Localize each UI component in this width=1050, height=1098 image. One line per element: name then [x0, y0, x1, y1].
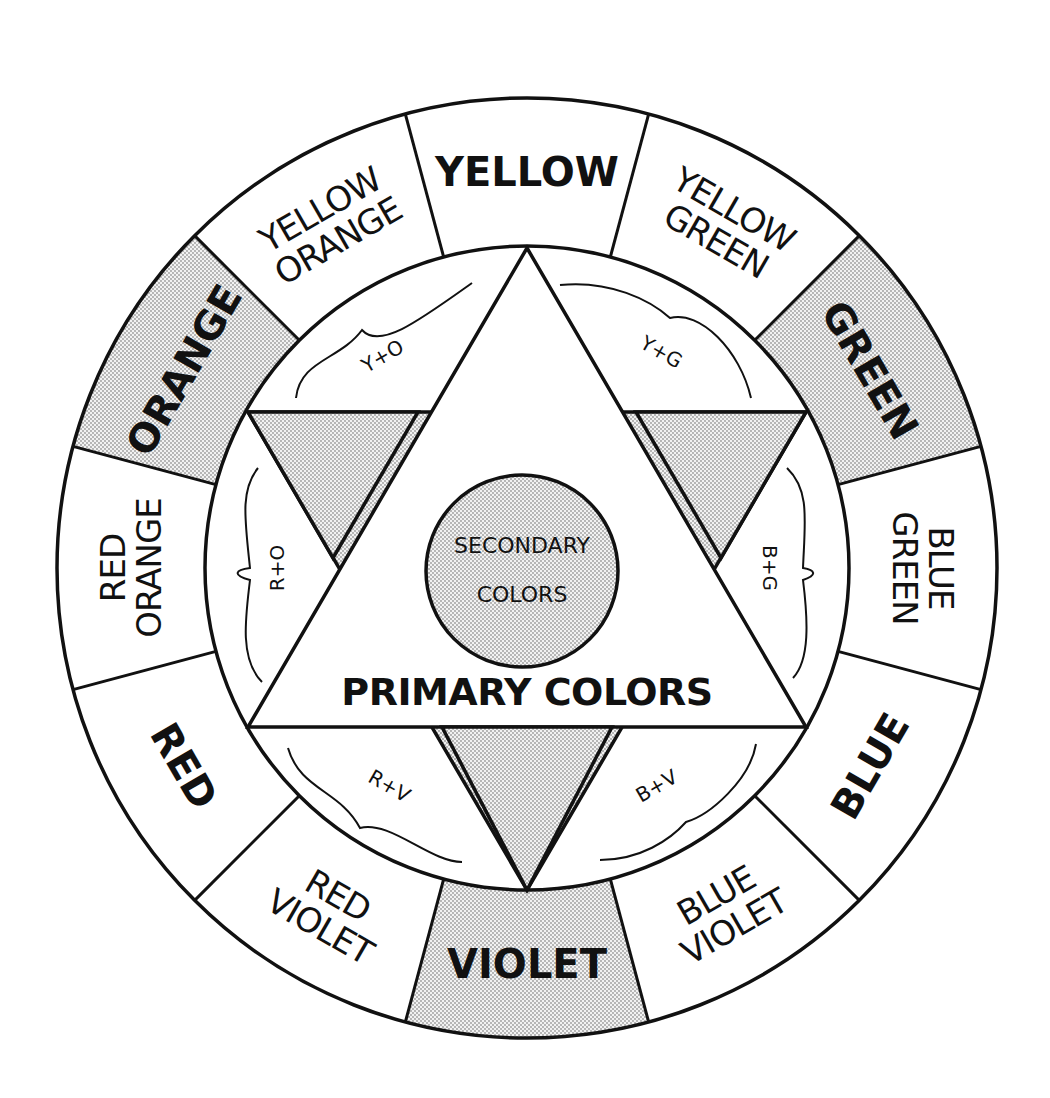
- segment-label-line: ORANGE: [129, 498, 169, 638]
- segment-label-line: GREEN: [885, 511, 925, 624]
- secondary-colors-circle: [426, 475, 618, 667]
- segment-yellow-orange: YELLOWORANGE: [250, 157, 409, 293]
- mix-label-b-g: B+G: [758, 545, 782, 591]
- segment-label-line: RED: [141, 715, 227, 817]
- segment-blue: BLUE: [821, 705, 918, 827]
- segment-yellow: YELLOW: [434, 149, 619, 195]
- segment-label-line: VIOLET: [447, 941, 608, 987]
- segment-red: RED: [141, 715, 227, 817]
- segment-red-violet: REDVIOLET: [260, 849, 399, 973]
- color-wheel: YELLOWYELLOWGREENGREENBLUEGREENBLUEBLUEV…: [0, 0, 1050, 1098]
- segment-label-line: RED: [93, 534, 133, 602]
- segment-divider: [838, 651, 981, 689]
- mix-label-r-o: R+O: [265, 545, 289, 591]
- primary-colors-label: PRIMARY COLORS: [341, 670, 712, 714]
- segment-label-line: BLUE: [821, 705, 918, 827]
- segment-label-line: YELLOW: [434, 149, 619, 195]
- segment-divider: [73, 651, 216, 689]
- secondary-label-line1: SECONDARY: [454, 533, 590, 558]
- segment-label-line: BLUE: [921, 527, 961, 610]
- segment-blue-violet: BLUEVIOLET: [656, 849, 795, 973]
- segment-red-orange: REDORANGE: [93, 498, 169, 638]
- segment-yellow-green: YELLOWGREEN: [647, 158, 802, 291]
- segment-violet: VIOLET: [447, 941, 608, 987]
- secondary-label-line2: COLORS: [477, 582, 568, 607]
- segment-blue-green: BLUEGREEN: [885, 511, 961, 624]
